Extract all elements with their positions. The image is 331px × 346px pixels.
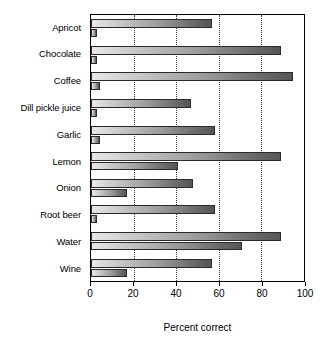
- bar: [91, 99, 191, 108]
- bar: [91, 29, 97, 37]
- x-tick-100: [305, 282, 306, 286]
- bar: [91, 215, 97, 223]
- x-tick-20: [133, 282, 134, 286]
- bar-group: [91, 121, 304, 148]
- y-axis-label-coffee: Coffee: [0, 68, 85, 95]
- bar-group: [91, 228, 304, 255]
- x-tick-80: [262, 282, 263, 286]
- x-tick-60: [219, 282, 220, 286]
- bar: [91, 56, 97, 64]
- y-axis-label-onion: Onion: [0, 175, 85, 202]
- bar: [91, 152, 281, 161]
- bar: [91, 19, 212, 28]
- bar: [91, 162, 178, 170]
- y-axis-label-chocolate: Chocolate: [0, 41, 85, 68]
- bar: [91, 179, 193, 188]
- x-tick-label-40: 40: [170, 287, 181, 301]
- x-tick-label-20: 20: [127, 287, 138, 301]
- y-axis-label-dill-pickle-juice: Dill pickle juice: [0, 94, 85, 121]
- bar: [91, 46, 281, 55]
- y-axis-label-root-beer: Root beer: [0, 202, 85, 229]
- bar: [91, 189, 127, 197]
- bar: [91, 82, 100, 90]
- bar-group: [91, 42, 304, 69]
- y-axis-label-garlic: Garlic: [0, 121, 85, 148]
- y-axis-label-lemon: Lemon: [0, 148, 85, 175]
- y-axis-label-apricot: Apricot: [0, 14, 85, 41]
- bar: [91, 259, 212, 268]
- x-tick-label-0: 0: [87, 287, 93, 301]
- x-tick-label-80: 80: [256, 287, 267, 301]
- bar-group: [91, 254, 304, 281]
- bar-groups: [91, 15, 304, 281]
- y-axis-label-wine: Wine: [0, 255, 85, 282]
- bar: [91, 242, 242, 250]
- bar-group: [91, 15, 304, 42]
- bar-group: [91, 175, 304, 202]
- bar: [91, 136, 100, 144]
- bar: [91, 109, 97, 117]
- bar: [91, 205, 215, 214]
- bar: [91, 72, 293, 81]
- bar: [91, 232, 281, 241]
- y-axis-label-water: Water: [0, 228, 85, 255]
- bar-group: [91, 95, 304, 122]
- x-axis-tick-labels: 020406080100: [90, 287, 305, 303]
- bar: [91, 269, 127, 277]
- y-axis-category-labels: Apricot Chocolate Coffee Dill pickle jui…: [0, 14, 85, 282]
- x-axis-title: Percent correct: [90, 322, 305, 333]
- bar-group: [91, 68, 304, 95]
- x-tick-0: [90, 282, 91, 286]
- plot-area: [90, 14, 305, 282]
- bar-group: [91, 201, 304, 228]
- bar-group: [91, 148, 304, 175]
- x-tick-label-60: 60: [213, 287, 224, 301]
- x-tick-label-100: 100: [297, 287, 314, 301]
- x-tick-40: [176, 282, 177, 286]
- bar-chart: Apricot Chocolate Coffee Dill pickle jui…: [0, 0, 331, 346]
- bar: [91, 126, 215, 135]
